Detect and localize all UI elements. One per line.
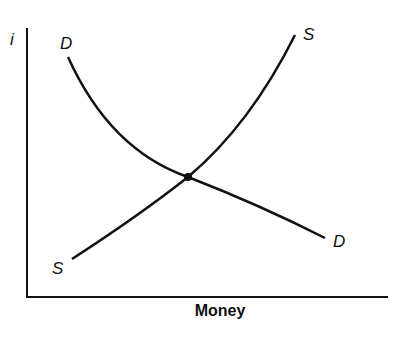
supply-label-bottom: S bbox=[52, 259, 63, 279]
x-axis-label: Money bbox=[0, 302, 410, 320]
y-axis-label: i bbox=[10, 30, 14, 50]
supply-label-top: S bbox=[303, 25, 314, 45]
demand-curve bbox=[68, 57, 325, 238]
equilibrium-point bbox=[184, 173, 192, 181]
supply-curve bbox=[72, 35, 295, 259]
demand-label-top: D bbox=[60, 34, 72, 54]
demand-label-bottom: D bbox=[333, 232, 345, 252]
